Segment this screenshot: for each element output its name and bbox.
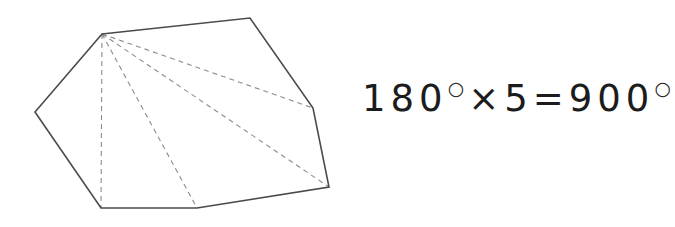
- degree-symbol-first: ○: [448, 77, 469, 99]
- diagonal-to-bottom-left: [101, 34, 102, 208]
- diagonal-to-bottom-mid: [102, 34, 197, 208]
- diagonal-to-right-middle: [102, 34, 313, 108]
- heptagon-diagonals: [101, 34, 329, 208]
- equation: 180○×5=900○: [362, 80, 652, 130]
- equation-body: ×5=900: [468, 80, 654, 117]
- diagonal-to-bottom-right: [102, 34, 329, 187]
- equation-left-value: 180: [362, 80, 448, 117]
- degree-symbol-second: ○: [654, 77, 675, 99]
